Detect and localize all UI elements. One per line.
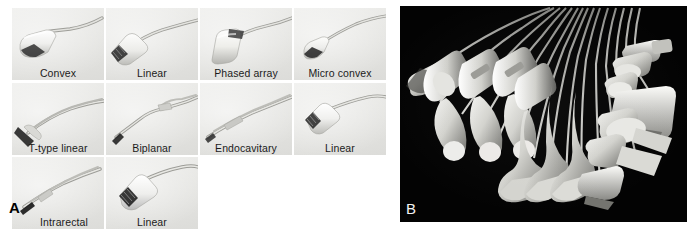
panel-a-row: Intrarectal Linear: [12, 157, 198, 229]
panel-a: Convex Linear: [0, 0, 400, 229]
panel-a-label: A: [9, 200, 20, 215]
tile-caption: T-type linear: [12, 142, 104, 154]
tile-caption: Linear: [106, 67, 198, 79]
figure: Convex Linear: [0, 0, 693, 229]
probe-tile-linear-t: Linear: [106, 157, 198, 229]
probe-tile-t-type-linear: T-type linear: [12, 83, 104, 155]
probe-tile-intrarectal: Intrarectal: [12, 157, 104, 229]
probe-tile-convex: Convex: [12, 8, 104, 80]
probe-tile-endocavitary: Endocavitary: [200, 83, 292, 155]
tile-caption: Intrarectal: [12, 216, 104, 228]
tile-caption: Linear: [106, 216, 198, 228]
panel-a-row: Convex Linear: [12, 8, 386, 80]
tile-caption: Linear: [294, 142, 386, 154]
panel-b: B: [400, 6, 687, 222]
tile-caption: Micro convex: [294, 67, 386, 79]
tile-caption: Endocavitary: [200, 142, 292, 154]
tile-caption: Biplanar: [106, 142, 198, 154]
probe-tile-linear-wide: Linear: [294, 83, 386, 155]
probe-tile-micro-convex: Micro convex: [294, 8, 386, 80]
probe-tile-biplanar: Biplanar: [106, 83, 198, 155]
tile-caption: Convex: [12, 67, 104, 79]
probe-tile-linear: Linear: [106, 8, 198, 80]
panel-b-label: B: [406, 201, 416, 216]
panel-b-photograph: [400, 6, 687, 222]
probe-tile-phased-array: Phased array: [200, 8, 292, 80]
panel-a-row: T-type linear Biplanar: [12, 83, 386, 155]
tile-caption: Phased array: [200, 67, 292, 79]
